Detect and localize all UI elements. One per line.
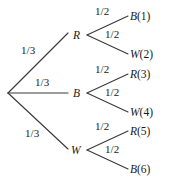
- edge-label-r-to-w2: 1/2: [105, 29, 119, 40]
- leaf-b1-letter: B: [130, 10, 137, 22]
- edge-label-root-to-b: 1/3: [35, 77, 49, 88]
- leaf-w4: W(4): [130, 107, 153, 119]
- leaf-r5: R(5): [130, 126, 150, 138]
- edge-label-b-to-w4: 1/2: [105, 87, 119, 98]
- edge-label-w-to-b6: 1/2: [105, 144, 119, 155]
- edge-label-r-to-b1: 1/2: [95, 6, 109, 17]
- leaf-w4-letter: W: [130, 106, 140, 118]
- leaf-w4-number: (4): [140, 106, 153, 118]
- edge-label-w-to-r5: 1/2: [95, 121, 109, 132]
- leaf-b6-letter: B: [130, 163, 137, 175]
- edge-label-root-to-r: 1/3: [21, 45, 35, 56]
- leaf-r3: R(3): [130, 69, 150, 81]
- leaf-b1-number: (1): [137, 10, 150, 22]
- leaf-w2-number: (2): [140, 48, 153, 60]
- node-r: R: [73, 30, 80, 42]
- node-w: W: [71, 145, 81, 157]
- leaf-r5-letter: R: [130, 125, 137, 137]
- leaf-b6: B(6): [130, 164, 150, 176]
- leaf-b1: B(1): [130, 11, 150, 23]
- node-b: B: [73, 88, 80, 100]
- tree-edges: [0, 0, 170, 185]
- edge-root-to-w: [8, 93, 68, 149]
- leaf-r3-letter: R: [130, 68, 137, 80]
- edge-label-root-to-w: 1/3: [25, 128, 39, 139]
- edge-label-b-to-r3: 1/2: [95, 64, 109, 75]
- probability-tree-diagram: 1/3 1/3 1/3 R B W 1/2 1/2 1/2 1/2 1/2 1/…: [0, 0, 170, 185]
- leaf-w2: W(2): [130, 49, 153, 61]
- leaf-r5-number: (5): [137, 125, 150, 137]
- leaf-r3-number: (3): [137, 68, 150, 80]
- leaf-b6-number: (6): [137, 163, 150, 175]
- leaf-w2-letter: W: [130, 48, 140, 60]
